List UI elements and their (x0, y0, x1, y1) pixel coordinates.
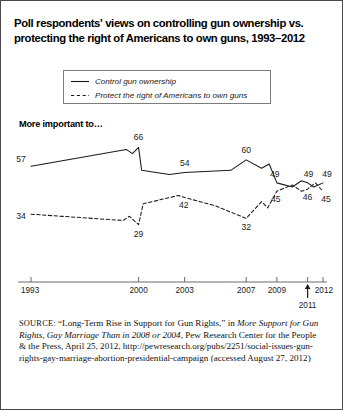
data-point-label: 46 (303, 192, 313, 202)
y-axis-note: More important to… (19, 119, 103, 129)
dashed-line-icon (71, 92, 89, 99)
data-point-label: 42 (179, 200, 189, 210)
source-text-1: “Long-Term Rise in Support for Gun Right… (56, 318, 237, 328)
data-point-label: 54 (180, 158, 190, 168)
title-block: Poll respondents' views on controlling g… (14, 16, 330, 46)
page-title: Poll respondents' views on controlling g… (14, 16, 330, 46)
data-point-label: 45 (321, 194, 331, 204)
x-axis-tick-label: 1993 (21, 286, 40, 295)
series-line-control-gun-ownership (31, 147, 323, 187)
x-axis-tick-label: 2012 (315, 286, 334, 295)
chart-legend: Control gun ownership Protect the right … (63, 70, 271, 104)
data-point-label: 66 (134, 132, 144, 142)
legend-item-protect-right-to-own-guns: Protect the right of Americans to own gu… (71, 89, 263, 102)
data-point-labels: 5766546049494934294232454645 (16, 132, 332, 238)
source-note: SOURCE: “Long-Term Rise in Support for G… (19, 318, 325, 364)
figure-container: Poll respondents' views on controlling g… (0, 0, 343, 410)
data-point-label: 57 (16, 154, 26, 164)
x-axis-tick-label: 2007 (237, 286, 256, 295)
data-point-label: 34 (16, 211, 26, 221)
x-axis-tick-label: 2000 (129, 286, 148, 295)
x-axis: 1993200020032007200920112012 (18, 277, 333, 310)
x-axis-tick-label: 2003 (176, 286, 195, 295)
data-point-label: 32 (241, 222, 251, 232)
legend-item-label: Control gun ownership (95, 77, 176, 86)
solid-line-icon (71, 78, 89, 85)
legend-item-control-gun-ownership: Control gun ownership (71, 75, 263, 88)
data-point-label: 49 (322, 169, 332, 179)
legend-item-label: Protect the right of Americans to own gu… (95, 91, 247, 100)
data-point-label: 60 (241, 145, 251, 155)
source-label: SOURCE: (19, 319, 56, 328)
series-line-protect-right-to-own-guns (31, 183, 323, 225)
data-point-label: 49 (270, 169, 280, 179)
data-point-label: 29 (134, 229, 144, 239)
x-axis-tick-label: 2011 (299, 301, 317, 310)
series-layer (31, 147, 323, 224)
data-point-label: 45 (271, 194, 281, 204)
annotation-2011: 2011 (299, 284, 317, 310)
x-axis-tick-label: 2009 (268, 286, 287, 295)
data-point-label: 49 (304, 169, 314, 179)
